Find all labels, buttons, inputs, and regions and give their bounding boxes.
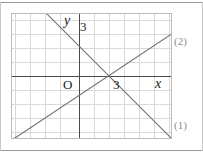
- frame-rule-right: [202, 2, 203, 151]
- series-label-2: (2): [174, 36, 187, 47]
- frame-rule-bottom: [0, 150, 203, 151]
- origin-label: O: [63, 78, 72, 91]
- y-tick-label-3: 3: [80, 20, 87, 33]
- line-series-1: [12, 14, 172, 139]
- x-tick-label-3: 3: [113, 78, 120, 91]
- y-axis-label: y: [64, 14, 70, 28]
- series-label-1: (1): [174, 120, 187, 131]
- line-series-2: [12, 33, 172, 139]
- x-axis-label: x: [155, 77, 161, 91]
- frame-rule-left: [0, 2, 1, 151]
- figure-root: y 3 O 3 x (2) (1): [0, 0, 203, 159]
- frame-rule-top: [0, 2, 203, 3]
- plot-area: [11, 13, 172, 139]
- line-layer: [12, 14, 172, 139]
